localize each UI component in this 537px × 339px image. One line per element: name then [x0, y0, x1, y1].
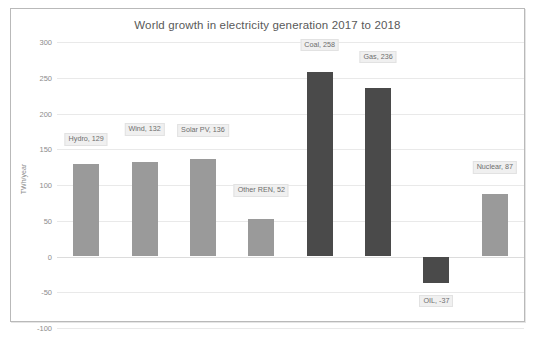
data-label-nuclear: Nuclear, 87	[473, 161, 517, 173]
gridline: 300	[57, 42, 524, 43]
gridline: 150	[57, 149, 524, 150]
y-axis-tick-label: 250	[39, 73, 52, 82]
bar-nuclear[interactable]	[482, 194, 508, 256]
y-axis-tick-label: 300	[39, 38, 52, 47]
bar-other-ren[interactable]	[248, 219, 274, 256]
bar-wind[interactable]	[132, 162, 158, 256]
data-label-coal: Coal, 258	[300, 39, 339, 51]
data-label-oil: OIL, -37	[419, 295, 453, 307]
y-axis-tick-label: 150	[39, 145, 52, 154]
gridline: 0	[57, 257, 524, 258]
plot-area: 300250200150100500-50-100Hydro, 129Wind,…	[57, 42, 524, 328]
gridline: 200	[57, 114, 524, 115]
y-axis-tick-label: 0	[48, 252, 52, 261]
gridline: 250	[57, 78, 524, 79]
data-label-hydro: Hydro, 129	[65, 133, 108, 145]
bar-hydro[interactable]	[73, 164, 99, 256]
bar-solar-pv[interactable]	[190, 159, 216, 256]
gridline: -100	[57, 328, 524, 329]
bar-coal[interactable]	[307, 72, 333, 256]
gridline: -50	[57, 292, 524, 293]
data-label-gas: Gas, 236	[359, 51, 396, 63]
chart-title: World growth in electricity generation 2…	[11, 19, 524, 31]
data-label-other-ren: Other REN, 52	[234, 184, 289, 196]
bar-gas[interactable]	[365, 88, 391, 257]
chart-frame: World growth in electricity generation 2…	[10, 8, 525, 322]
y-axis-tick-label: 200	[39, 109, 52, 118]
y-axis-tick-label: -50	[41, 288, 52, 297]
data-label-wind: Wind, 132	[124, 123, 164, 135]
y-axis-title: TWh/year	[20, 164, 27, 194]
data-label-solar-pv: Solar PV, 136	[177, 124, 229, 136]
y-axis-tick-label: 50	[44, 216, 52, 225]
bar-oil[interactable]	[423, 257, 449, 283]
gridline: 50	[57, 221, 524, 222]
y-axis-tick-label: 100	[39, 181, 52, 190]
gridline: 100	[57, 185, 524, 186]
y-axis-tick-label: -100	[37, 324, 52, 333]
